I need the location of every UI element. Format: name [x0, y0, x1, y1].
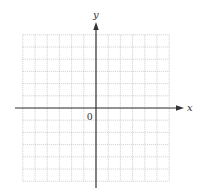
y-axis-arrow-icon	[93, 22, 98, 30]
origin-label: 0	[87, 110, 93, 122]
coordinate-plane: x y 0	[0, 0, 203, 194]
x-axis-label: x	[187, 102, 193, 113]
x-axis-arrow-icon	[176, 105, 184, 110]
y-axis-label: y	[92, 9, 99, 20]
